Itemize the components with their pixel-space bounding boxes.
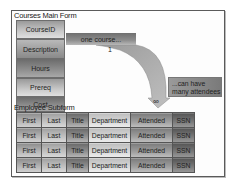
cell-attended: Attended (131, 158, 173, 173)
cell-title: Title (67, 128, 89, 143)
cell-ssn: SSN (173, 128, 195, 143)
cell-last: Last (42, 128, 67, 143)
cell-attended: Attended (131, 128, 173, 143)
cell-last: Last (42, 158, 67, 173)
cell-last: Last (42, 113, 67, 128)
employee-subform-table: First Last Title Department Attended SSN… (16, 112, 195, 173)
table-row: First Last Title Department Attended SSN (17, 158, 195, 173)
cell-title: Title (67, 143, 89, 158)
cell-department: Department (89, 158, 131, 173)
cell-title: Title (67, 113, 89, 128)
table-row: First Last Title Department Attended SSN (17, 113, 195, 128)
cell-ssn: SSN (173, 143, 195, 158)
cell-attended: Attended (131, 143, 173, 158)
table-row: First Last Title Department Attended SSN (17, 143, 195, 158)
note-line-2: many attendees (172, 88, 221, 96)
cell-first: First (17, 128, 42, 143)
subform-title: Employee Subform (14, 103, 75, 112)
cell-ssn: SSN (173, 113, 195, 128)
note-line-1: ...can have (172, 80, 221, 88)
cell-attended: Attended (131, 113, 173, 128)
cell-last: Last (42, 143, 67, 158)
cell-department: Department (89, 113, 131, 128)
cell-ssn: SSN (173, 158, 195, 173)
one-course-label: one course... (81, 36, 121, 43)
cell-first: First (17, 158, 42, 173)
one-course-bar: one course... (66, 33, 136, 45)
cell-title: Title (67, 158, 89, 173)
cell-first: First (17, 113, 42, 128)
one-cardinality: 1 (108, 46, 112, 53)
many-cardinality: ∞ (153, 98, 159, 106)
cell-first: First (17, 143, 42, 158)
cell-department: Department (89, 143, 131, 158)
many-attendees-note: ...can have many attendees (168, 77, 222, 97)
cell-department: Department (89, 128, 131, 143)
table-row: First Last Title Department Attended SSN (17, 128, 195, 143)
